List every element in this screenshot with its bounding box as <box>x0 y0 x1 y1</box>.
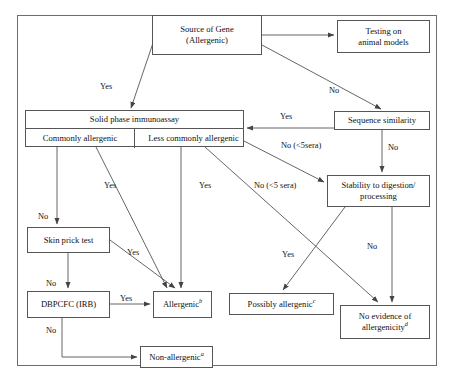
edge-label-stability-to-no-evidence: No <box>367 242 377 251</box>
node-non-allergenic[interactable]: Non-allergenica <box>140 346 213 368</box>
node-non-allergenic-label: Non-allergenic <box>149 352 200 362</box>
node-less-commonly-allergenic[interactable]: Less commonly allergenic <box>135 129 252 148</box>
node-non-allergenic-superscript: a <box>201 350 204 357</box>
edge-label-sequence-to-solid-phase: Yes <box>280 112 292 121</box>
node-testing-on-animal-models[interactable]: Testing on animal models <box>337 20 430 53</box>
edge-label-skin-prick-to-dbpcfc: No <box>46 279 56 288</box>
node-source-of-gene-line1: Source of Gene <box>180 24 233 35</box>
edge-label-skin-prick-to-allergenic: Yes <box>127 248 139 257</box>
node-solid-phase-immunoassay[interactable]: Solid phase immunoassay Commonly allerge… <box>25 110 244 147</box>
node-possibly-allergenic[interactable]: Possibly allergenicc <box>229 293 334 315</box>
node-allergenic-superscript: b <box>199 297 202 304</box>
edge-label-less-commonly-to-no-evidence: No (<5 sera) <box>254 181 296 190</box>
node-source-of-gene-line2: (Allergenic) <box>180 35 233 46</box>
edge-label-commonly-to-allergenic: Yes <box>104 181 116 190</box>
node-no-evidence-of-allergenicity[interactable]: No evidence of allergenicityd <box>340 305 430 339</box>
node-non-allergenic-text: Non-allergenica <box>149 352 203 363</box>
node-no-evidence-line2-wrap: allergenicityd <box>359 322 412 333</box>
node-stability-line1: Stability to digestion/ <box>341 180 415 191</box>
node-sequence-similarity-label: Sequence similarity <box>348 115 416 126</box>
node-dbpcfc-label: DBPCFC (IRB) <box>41 299 96 310</box>
node-no-evidence-superscript: d <box>405 320 408 327</box>
edge-label-sequence-to-stability: No <box>388 143 398 152</box>
edge-label-stability-to-possibly-allergenic: Yes <box>282 250 294 259</box>
edge-label-source-to-solid-phase: Yes <box>100 82 112 91</box>
node-stability-line2: processing <box>341 191 415 202</box>
node-possibly-allergenic-label: Possibly allergenic <box>248 299 313 309</box>
node-commonly-allergenic[interactable]: Commonly allergenic <box>26 129 135 148</box>
flowchart-page: Source of Gene (Allergenic) Testing on a… <box>0 0 455 389</box>
node-solid-phase-header: Solid phase immunoassay <box>26 111 243 129</box>
edge-label-dbpcfc-to-non-allergenic: No <box>46 326 56 335</box>
edge-label-source-to-sequence: No <box>329 86 339 95</box>
node-source-of-gene[interactable]: Source of Gene (Allergenic) <box>152 15 262 55</box>
node-stability-to-digestion[interactable]: Stability to digestion/ processing <box>327 175 430 207</box>
node-solid-phase-cells: Commonly allergenic Less commonly allerg… <box>26 129 243 148</box>
node-allergenic-label: Allergenic <box>163 299 199 309</box>
node-skin-prick-test[interactable]: Skin prick test <box>27 227 110 253</box>
node-sequence-similarity[interactable]: Sequence similarity <box>334 111 430 130</box>
node-possibly-allergenic-text: Possibly allergenicc <box>248 299 316 310</box>
node-animal-models-line1: Testing on <box>358 26 408 37</box>
node-allergenic[interactable]: Allergenicb <box>153 291 212 318</box>
edge-label-commonly-to-skin-prick: No <box>38 212 48 221</box>
node-no-evidence-line2: allergenicity <box>362 322 405 332</box>
node-skin-prick-test-label: Skin prick test <box>44 235 94 246</box>
node-animal-models-line2: animal models <box>358 37 408 48</box>
edge-label-less-commonly-to-stability: No (<5sera) <box>281 141 321 150</box>
node-no-evidence-line1: No evidence of <box>359 311 412 322</box>
edge-label-less-commonly-to-allergenic: Yes <box>199 181 211 190</box>
node-possibly-allergenic-superscript: c <box>313 297 316 304</box>
edge-label-dbpcfc-to-allergenic: Yes <box>120 294 132 303</box>
node-dbpcfc-irb[interactable]: DBPCFC (IRB) <box>27 291 110 318</box>
node-allergenic-text: Allergenicb <box>163 299 202 310</box>
